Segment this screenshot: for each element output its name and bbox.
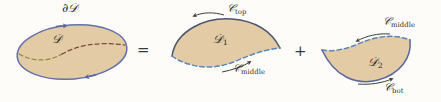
- figure-canvas: ∂𝒟 𝒟 𝒞top 𝒟1 𝒞middle 𝒞middle 𝒟2 𝒞bot = +: [0, 0, 441, 102]
- panel-region-D: [15, 20, 129, 83]
- region-D-fill: [15, 20, 129, 83]
- label-region-D2-subscript: 2: [378, 61, 383, 70]
- label-curve-c-top-subscript: top: [235, 8, 247, 16]
- label-curve-c-middle-lower: 𝒞middle: [383, 16, 415, 29]
- operator-equals: =: [137, 43, 150, 58]
- label-curve-c-bot-subscript: bot: [392, 87, 404, 95]
- panel-region-D2: [322, 34, 410, 84]
- curve-c-top-arrow: [194, 13, 224, 16]
- label-curve-c-bot-letter: 𝒞: [384, 81, 392, 94]
- label-curve-c-top-letter: 𝒞: [227, 2, 235, 15]
- label-boundary-of-D-script: 𝒟: [68, 1, 78, 15]
- label-region-D1: 𝒟1: [213, 33, 228, 46]
- region-D2-fill: [322, 36, 410, 81]
- label-curve-c-middle-upper-subscript: middle: [241, 68, 265, 76]
- label-region-D1-letter: 𝒟: [213, 32, 223, 46]
- label-curve-c-top: 𝒞top: [227, 3, 247, 16]
- label-region-D2-letter: 𝒟: [368, 55, 378, 69]
- label-region-D2: 𝒟2: [368, 56, 383, 69]
- region-D-boundary-arrow-top: [56, 26, 66, 27]
- label-curve-c-middle-upper: 𝒞middle: [233, 63, 265, 76]
- label-region-D: 𝒟: [52, 33, 62, 45]
- label-curve-c-bot: 𝒞bot: [384, 82, 404, 95]
- label-region-D1-subscript: 1: [223, 38, 228, 47]
- label-curve-c-middle-lower-subscript: middle: [391, 21, 415, 29]
- label-curve-c-middle-lower-letter: 𝒞: [383, 15, 391, 28]
- operator-plus: +: [294, 44, 307, 59]
- figure-vector-graphics: [0, 0, 441, 102]
- label-curve-c-middle-upper-letter: 𝒞: [233, 62, 241, 75]
- label-boundary-of-D: ∂𝒟: [62, 2, 78, 14]
